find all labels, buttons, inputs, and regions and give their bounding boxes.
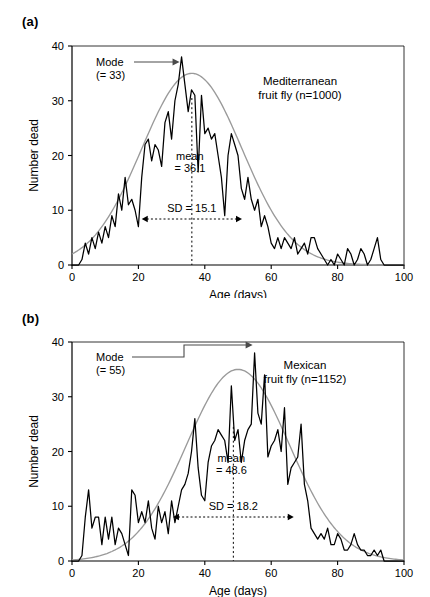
y-axis-title: Number dead xyxy=(27,415,41,488)
y-tick-label: 10 xyxy=(52,204,64,216)
sd-arrowhead-left xyxy=(142,216,148,222)
panel-a: (a) 020406080100010203040Age (days)Numbe… xyxy=(0,0,430,298)
x-tick-label: 40 xyxy=(199,567,211,579)
y-tick-label: 20 xyxy=(52,150,64,162)
mean-label-line2: = 48.6 xyxy=(216,464,247,476)
panel-b: (b) 020406080100010203040Age (days)Numbe… xyxy=(0,299,430,597)
y-tick-label: 0 xyxy=(58,259,64,271)
y-tick-label: 40 xyxy=(52,40,64,52)
x-tick-label: 80 xyxy=(331,271,343,283)
panel-b-plot: 020406080100010203040Age (days)Number de… xyxy=(0,299,430,597)
y-tick-label: 20 xyxy=(52,446,64,458)
mode-label-line1: Mode xyxy=(96,351,124,363)
x-tick-label: 80 xyxy=(331,567,343,579)
mean-label-line1: mean xyxy=(176,150,204,162)
y-tick-label: 30 xyxy=(52,95,64,107)
sd-arrowhead-right xyxy=(288,514,294,520)
x-axis-title: Age (days) xyxy=(209,288,267,298)
mean-label-line1: mean xyxy=(218,452,246,464)
x-axis-title: Age (days) xyxy=(209,584,267,597)
x-tick-label: 100 xyxy=(395,567,413,579)
sd-arrowhead-right xyxy=(236,216,242,222)
fitted-normal-curve xyxy=(72,73,404,265)
observed-data-line xyxy=(72,57,404,265)
y-tick-label: 30 xyxy=(52,391,64,403)
x-tick-label: 20 xyxy=(132,271,144,283)
mode-label-line1: Mode xyxy=(96,56,124,68)
y-tick-label: 0 xyxy=(58,555,64,567)
series-title-line2: fruit fly (n=1152) xyxy=(264,373,347,385)
series-title-line1: Mexican xyxy=(284,359,327,371)
y-axis-title: Number dead xyxy=(27,119,41,192)
series-title-line2: fruit fly (n=1000) xyxy=(258,89,342,101)
mode-label-line2: (= 55) xyxy=(96,364,125,376)
x-tick-label: 20 xyxy=(132,567,144,579)
x-tick-label: 100 xyxy=(395,271,413,283)
x-tick-label: 40 xyxy=(199,271,211,283)
mode-label-line2: (= 33) xyxy=(96,69,125,81)
mode-arrowhead xyxy=(173,59,180,66)
figure-mortality-distributions: (a) 020406080100010203040Age (days)Numbe… xyxy=(0,0,430,597)
mode-arrowhead xyxy=(246,342,253,349)
series-title-line1: Mediterranean xyxy=(263,75,337,87)
x-tick-label: 60 xyxy=(265,271,277,283)
sd-label: SD = 15.1 xyxy=(167,202,216,214)
mode-arrow-shaft xyxy=(132,345,247,357)
panel-a-plot: 020406080100010203040Age (days)Number de… xyxy=(0,0,430,298)
y-tick-label: 40 xyxy=(52,336,64,348)
x-tick-label: 0 xyxy=(69,567,75,579)
x-tick-label: 60 xyxy=(265,567,277,579)
sd-label: SD = 18.2 xyxy=(209,500,258,512)
y-tick-label: 10 xyxy=(52,500,64,512)
x-tick-label: 0 xyxy=(69,271,75,283)
mean-label-line2: = 36.1 xyxy=(174,162,205,174)
